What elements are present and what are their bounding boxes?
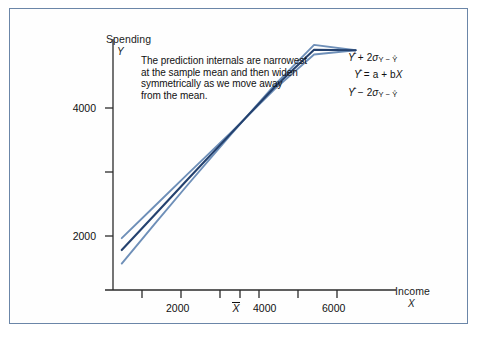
x-tick-label-6000: 6000 [322,302,345,314]
annotation-line-4: from the mean. [141,90,346,102]
annotation-line-1: The prediction internals are narrowest [141,55,346,67]
legend-lower-operator: − [358,87,364,98]
legend-middle-yhat: Y [354,69,361,80]
annotation-text: The prediction internals are narrowest a… [141,55,346,101]
legend-middle-xvar: X [396,69,403,80]
x-axis-title: Income [395,285,430,297]
legend-label-upper-band: Ŷ + 2σY − Ŷ [348,52,397,64]
x-tick-label-2000: 2000 [166,302,189,314]
annotation-line-2: at the sample mean and then widen [141,67,346,79]
legend-upper-yhat: Y [348,52,355,63]
y-axis-variable: Y [117,46,124,57]
y-axis-title: Spending [106,33,151,45]
legend-upper-operator: + [358,52,364,63]
y-tick-label-2000: 2000 [56,230,96,242]
legend-upper-subscript: Y − Ŷ [378,55,397,64]
x-axis-ticks [142,290,337,298]
x-mean-marker-label: X [232,302,240,314]
legend-label-lower-band: Ŷ − 2σY − Ŷ [348,87,397,99]
y-tick-label-4000: 4000 [56,102,96,114]
x-tick-label-4000: 4000 [253,302,276,314]
y-axis-ticks [105,108,113,236]
x-mean-marker: X [232,302,240,314]
legend-middle-operator: = [364,69,370,80]
legend-lower-subscript: Y − Ŷ [378,90,397,99]
legend-lower-yhat: Y [348,87,355,98]
x-axis-variable: X [408,298,415,309]
legend-label-regression-line: Ŷ = a + bX [354,69,402,80]
figure-frame: Spending Y Income X 4000 2000 2000 4000 … [9,8,468,324]
legend-middle-expression: a + b [373,69,396,80]
annotation-line-3: symmetrically as we move away [141,78,346,90]
